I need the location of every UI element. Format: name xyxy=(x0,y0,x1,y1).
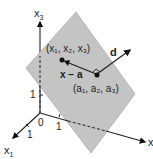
x2-tick-label: 1 xyxy=(56,121,62,132)
a-point-label: (a₁, a₂, a₃) xyxy=(73,83,119,94)
x3-tick-label: 1 xyxy=(30,89,36,100)
x3-axis-label: x3 xyxy=(34,7,44,21)
a-point-dot xyxy=(95,73,100,78)
d-label: d xyxy=(110,46,117,58)
x-minus-a-label: x − a xyxy=(60,69,83,80)
x2-tick xyxy=(59,114,60,117)
diagram-canvas: x3 x1 x 0 1 1 1 (x₁, x₂, x₃) (a₁, a₂, a₃… xyxy=(0,0,153,159)
x-point-dot xyxy=(60,58,65,63)
x1-tick-label: 1 xyxy=(27,129,33,140)
x1-axis-label: x1 xyxy=(4,144,14,158)
x2-axis-label: x xyxy=(148,136,153,148)
x2-axis-end xyxy=(106,131,145,142)
origin-label: 0 xyxy=(38,117,44,128)
x-point-label: (x₁, x₂, x₃) xyxy=(46,43,90,54)
